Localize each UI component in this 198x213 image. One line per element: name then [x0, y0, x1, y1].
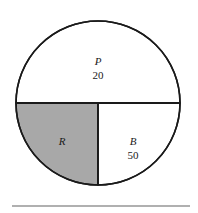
figure-root: P 20 R B 50 — [0, 0, 198, 213]
sector-p-value: 20 — [93, 69, 105, 81]
sector-b-value: 50 — [128, 149, 140, 161]
sector-p-label: P — [94, 55, 102, 67]
sector-b-label: B — [130, 135, 137, 147]
footer-divider-rule — [12, 205, 190, 207]
sector-r-label: R — [58, 135, 66, 147]
sector-b-wedge — [98, 103, 180, 185]
circle-sector-diagram: P 20 R B 50 — [0, 0, 198, 213]
sector-r-wedge — [16, 103, 98, 185]
